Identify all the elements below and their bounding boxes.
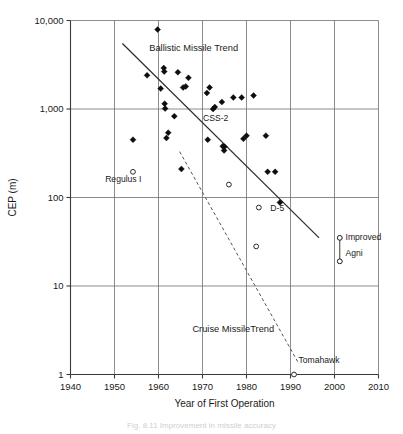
data-point-diamond: [155, 27, 161, 33]
figure-container: 1101001,00010,00019401950196019701980199…: [0, 0, 403, 434]
y-tick-label: 10,000: [34, 15, 63, 26]
x-tick-label: 2000: [324, 381, 345, 392]
d5-label: D-5: [270, 203, 284, 213]
data-point-diamond: [251, 93, 257, 99]
x-tick-label: 1970: [192, 381, 213, 392]
css2-label: CSS-2: [203, 113, 229, 123]
tick-labels-group: 1101001,00010,00019401950196019701980199…: [34, 15, 389, 392]
data-point-diamond: [219, 99, 225, 105]
x-tick-label: 1940: [60, 381, 81, 392]
x-tick-label: 1950: [104, 381, 125, 392]
data-point-diamond: [204, 90, 210, 96]
x-tick-label: 1960: [148, 381, 169, 392]
data-point-diamond: [130, 137, 136, 143]
trend-lines-group: [122, 43, 319, 362]
data-point-diamond: [163, 135, 169, 141]
x-tick-label: 1990: [280, 381, 301, 392]
data-point-diamond: [265, 169, 271, 175]
data-point-diamond: [205, 137, 211, 143]
data-point-diamond: [144, 72, 150, 78]
cruise-trend-label: Cruise MissileTrend: [192, 324, 274, 334]
data-point-diamond: [162, 106, 168, 112]
y-tick-label: 1,000: [40, 103, 64, 114]
figure-caption: Fig. 8.11 Improvement in missile accurac…: [0, 421, 403, 430]
agni-label-line2: Agni: [346, 248, 363, 258]
ballistic-trend-label: Ballistic Missile Trend: [149, 43, 238, 53]
data-point-diamond: [185, 75, 191, 81]
gridlines-group: [71, 21, 379, 375]
data-point-diamond: [230, 94, 236, 100]
data-point-diamond: [272, 169, 278, 175]
y-tick-label: 100: [48, 192, 64, 203]
data-point-circle: [254, 244, 259, 249]
data-point-diamond: [175, 69, 181, 75]
x-tick-label: 2010: [368, 381, 389, 392]
data-point-diamond: [263, 133, 269, 139]
data-point-circle: [337, 259, 342, 264]
tomahawk-label: Tomahawk: [298, 355, 340, 365]
data-point-circle: [256, 205, 261, 210]
y-tick-label: 10: [53, 280, 64, 291]
y-axis-title: CEP (m): [7, 178, 18, 216]
regulus-label: Regulus I: [105, 174, 141, 184]
y-tick-label: 1: [58, 369, 63, 380]
data-point-diamond: [162, 101, 168, 107]
data-point-diamond: [207, 84, 213, 90]
data-point-circle: [337, 235, 342, 240]
data-point-diamond: [239, 94, 245, 100]
chart-canvas: 1101001,00010,00019401950196019701980199…: [0, 0, 403, 434]
data-point-circle: [227, 182, 232, 187]
data-point-diamond: [178, 166, 184, 172]
x-tick-label: 1980: [236, 381, 257, 392]
annotations-group: Ballistic Missile TrendCruise MissileTre…: [105, 43, 381, 365]
data-point-circle: [292, 372, 297, 377]
agni-label-line1: Improved: [346, 232, 382, 242]
x-axis-title: Year of First Operation: [174, 398, 274, 409]
data-point-diamond: [165, 130, 171, 136]
trend-line-solid: [122, 43, 319, 237]
data-point-diamond: [171, 113, 177, 119]
